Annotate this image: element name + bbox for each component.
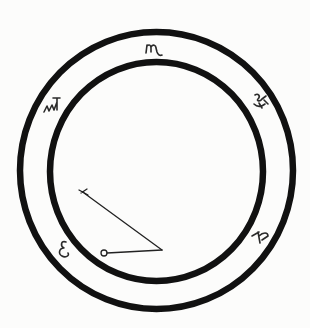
pointer-long-segment [84,193,162,250]
diagram-svg [0,0,310,328]
glyph-lower-right-icon [252,232,268,243]
outer-ring [20,32,293,309]
pointer [79,189,162,256]
ring-diagram: ɯ ʎ ⴽ ɛ ʞ [0,0,310,328]
glyph-lower-left-icon [60,242,69,257]
pointer-circle-cap-icon [101,250,107,256]
glyph-upper-left-icon [44,98,60,112]
pointer-short-segment [107,250,162,253]
inner-ring [50,62,263,281]
glyph-upper-right-icon [254,94,268,108]
pointer-t-cap-icon [79,189,88,195]
glyph-top-icon [146,45,162,55]
